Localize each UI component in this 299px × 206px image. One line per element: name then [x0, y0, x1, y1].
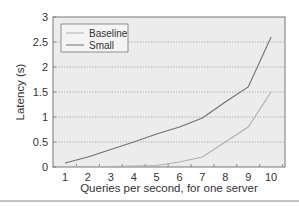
- y-tick-label: 0.5: [33, 136, 48, 148]
- y-tick-label: 2.5: [33, 36, 48, 48]
- x-axis-label: Queries per second, for one server: [80, 182, 258, 194]
- x-tick-label: 10: [265, 171, 277, 183]
- legend-label-baseline: Baseline: [89, 28, 128, 39]
- y-tick-label: 2: [42, 61, 48, 73]
- y-tick-label: 0: [42, 161, 48, 173]
- y-tick-label: 3: [42, 11, 48, 23]
- latency-chart: 00.511.522.53 12345678910 Baseline Small…: [0, 0, 299, 206]
- y-tick-label: 1.5: [33, 86, 48, 98]
- legend: Baseline Small: [61, 24, 128, 52]
- y-tick-label: 1: [42, 111, 48, 123]
- y-axis-label: Latency (s): [14, 63, 26, 120]
- x-tick-label: 1: [62, 171, 68, 183]
- legend-label-small: Small: [89, 40, 114, 51]
